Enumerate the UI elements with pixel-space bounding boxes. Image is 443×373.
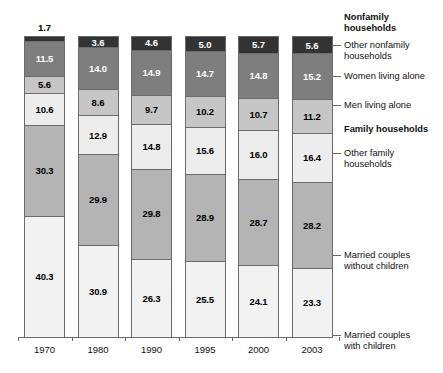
bar-segment-1980-5: 30.9: [78, 245, 119, 338]
segment-value-label: 11.2: [303, 112, 321, 122]
bar-segment-1980-0: 3.6: [78, 36, 119, 47]
segment-value-label: 16.0: [249, 150, 267, 160]
legend-label-0: Nonfamilyhouseholds: [344, 12, 443, 33]
bar-1995: 5.014.710.215.628.925.5: [185, 36, 226, 338]
bar-segment-1970-5: 40.3: [24, 216, 65, 338]
bar-segment-1990-4: 29.8: [131, 169, 172, 259]
legend-label-6: Married coupleswithout children: [344, 250, 443, 271]
segment-value-label: 5.0: [199, 40, 212, 50]
legend-leader-line-1: [332, 45, 341, 46]
legend-label-1: Other nonfamilyhouseholds: [344, 40, 443, 61]
x-axis-label-1980: 1980: [78, 344, 119, 355]
bar-segment-2000-1: 14.8: [238, 53, 279, 98]
plot-area: 1.711.55.610.630.340.319703.614.08.612.9…: [0, 0, 340, 373]
bar-segment-1970-1: 11.5: [24, 41, 65, 76]
x-axis-label-1970: 1970: [24, 344, 65, 355]
bar-segment-2000-0: 5.7: [238, 36, 279, 53]
legend-label-2: Women living alone: [344, 71, 443, 82]
segment-value-label: 14.7: [196, 69, 214, 79]
segment-value-label: 14.9: [142, 68, 160, 78]
bar-segment-2003-1: 15.2: [292, 53, 333, 99]
segment-value-label: 29.9: [89, 195, 107, 205]
bar-segment-1995-3: 15.6: [185, 127, 226, 174]
segment-value-label: 10.7: [249, 110, 267, 120]
segment-value-label: 4.6: [145, 38, 158, 48]
bar-segment-1995-0: 5.0: [185, 36, 226, 51]
segment-value-label: 28.7: [249, 218, 267, 228]
bar-segment-2000-2: 10.7: [238, 98, 279, 130]
legend-label-7: Married coupleswith children: [344, 330, 443, 351]
x-axis-label-1995: 1995: [185, 344, 226, 355]
segment-value-label: 14.8: [142, 142, 160, 152]
segment-value-label: 5.6: [38, 80, 51, 90]
legend-label-3: Men living alone: [344, 100, 443, 111]
segment-value-label: 23.3: [303, 298, 321, 308]
bar-segment-2000-4: 28.7: [238, 179, 279, 266]
bar-segment-1980-2: 8.6: [78, 89, 119, 115]
segment-value-label: 28.9: [196, 213, 214, 223]
bar-segment-1995-5: 25.5: [185, 261, 226, 338]
legend-leader-line-3: [332, 105, 341, 106]
bar-2000: 5.714.810.716.028.724.1: [238, 36, 279, 338]
bar-segment-1995-1: 14.7: [185, 51, 226, 95]
legend-label-4: Family households: [344, 124, 443, 135]
x-axis-label-1990: 1990: [131, 344, 172, 355]
bar-segment-2003-2: 11.2: [292, 99, 333, 133]
segment-value-label: 30.3: [35, 166, 53, 176]
segment-value-label: 9.7: [145, 105, 158, 115]
segment-value-label: 8.6: [92, 98, 105, 108]
bar-2003: 5.615.211.216.428.223.3: [292, 36, 333, 338]
bar-segment-1995-4: 28.9: [185, 174, 226, 261]
segment-value-label: 16.4: [303, 153, 321, 163]
segment-value-label: 30.9: [89, 287, 107, 297]
segment-value-label: 11.5: [36, 54, 54, 64]
x-axis-label-2000: 2000: [238, 344, 279, 355]
segment-value-label: 5.6: [306, 41, 319, 51]
bar-segment-1990-2: 9.7: [131, 95, 172, 124]
x-axis-label-2003: 2003: [292, 344, 333, 355]
segment-value-label: 14.8: [249, 71, 267, 81]
segment-value-label: 15.6: [196, 146, 214, 156]
segment-value-label: 24.1: [249, 297, 267, 307]
segment-value-label: 40.3: [35, 272, 53, 282]
bar-segment-1995-2: 10.2: [185, 96, 226, 127]
segment-value-label: 10.2: [196, 107, 214, 117]
bar-segment-1980-1: 14.0: [78, 47, 119, 89]
bar-segment-1970-3: 10.6: [24, 93, 65, 125]
x-axis-line: [18, 337, 328, 338]
legend-leader-line-5: [332, 153, 341, 154]
bar-1990: 4.614.99.714.829.826.3: [131, 36, 172, 338]
bar-segment-1970-4: 30.3: [24, 125, 65, 217]
legend-leader-line-6: [332, 255, 341, 256]
chart-legend: NonfamilyhouseholdsOther nonfamilyhouseh…: [332, 0, 443, 373]
bar-segment-1980-4: 29.9: [78, 154, 119, 244]
segment-value-label: 5.7: [252, 40, 265, 50]
bar-segment-1990-3: 14.8: [131, 124, 172, 169]
bar-segment-2000-5: 24.1: [238, 265, 279, 338]
bar-segment-2003-0: 5.6: [292, 36, 333, 53]
segment-value-label: 25.5: [196, 295, 214, 305]
bar-1970: 11.55.610.630.340.3: [24, 36, 65, 338]
bar-segment-1970-2: 5.6: [24, 76, 65, 93]
segment-value-label: 26.3: [142, 294, 160, 304]
bar-segment-1990-0: 4.6: [131, 36, 172, 50]
segment-value-label: 10.6: [35, 105, 53, 115]
segment-value-label: 12.9: [89, 131, 107, 141]
bar-segment-1980-3: 12.9: [78, 115, 119, 154]
legend-leader-line-7: [332, 335, 341, 336]
bar-segment-2003-5: 23.3: [292, 268, 333, 338]
legend-label-5: Other familyhouseholds: [344, 148, 443, 169]
bar-segment-1990-5: 26.3: [131, 259, 172, 338]
legend-leader-line-2: [332, 76, 341, 77]
stacked-bar-chart: 1.711.55.610.630.340.319703.614.08.612.9…: [0, 0, 443, 373]
bar-segment-2003-3: 16.4: [292, 133, 333, 183]
bar-1980: 3.614.08.612.929.930.9: [78, 36, 119, 338]
segment-value-label: 29.8: [142, 209, 160, 219]
bar-segment-2003-4: 28.2: [292, 182, 333, 267]
segment-value-label: 28.2: [303, 221, 321, 231]
bar-segment-1990-1: 14.9: [131, 50, 172, 95]
segment-value-label-outside: 1.7: [24, 22, 65, 33]
bar-segment-2000-3: 16.0: [238, 130, 279, 178]
segment-value-label: 15.2: [303, 72, 321, 82]
segment-value-label: 3.6: [92, 38, 105, 48]
